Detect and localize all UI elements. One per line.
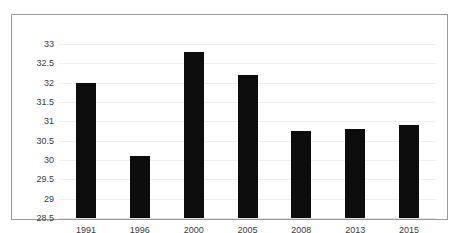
x-axis-tick-label: 2000 (184, 226, 204, 232)
y-axis-tick-label: 29 (44, 194, 54, 203)
y-axis-tick-label: 30 (44, 156, 54, 165)
y-axis-tick-label: 32 (44, 78, 54, 87)
y-axis-tick-label: 31 (44, 117, 54, 126)
x-axis-tick-label: 2015 (399, 226, 419, 232)
plot-area: 3332.53231.53130.53029.52928.51991199620… (59, 44, 436, 218)
x-axis-tick-label: 1996 (130, 226, 150, 232)
y-axis-tick-label: 33 (44, 40, 54, 49)
gridline (59, 218, 436, 219)
x-axis-tick-label: 2005 (237, 226, 257, 232)
y-axis-tick-label: 29.5 (36, 175, 54, 184)
x-axis-tick-label: 1991 (76, 226, 96, 232)
y-axis-tick-label: 32.5 (36, 59, 54, 68)
bar-2000[interactable] (184, 52, 204, 218)
y-axis-tick-label: 30.5 (36, 136, 54, 145)
y-axis-tick-label: 31.5 (36, 98, 54, 107)
gridline (59, 44, 436, 45)
bar-1991[interactable] (76, 83, 96, 218)
bar-2005[interactable] (238, 75, 258, 218)
x-axis-tick-label: 2013 (345, 226, 365, 232)
x-axis-tick-label: 2008 (291, 226, 311, 232)
bar-2008[interactable] (291, 131, 311, 218)
chart-frame: 3332.53231.53130.53029.52928.51991199620… (11, 14, 448, 220)
y-axis-tick-label: 28.5 (36, 214, 54, 223)
bar-1996[interactable] (130, 156, 150, 218)
bar-2013[interactable] (345, 129, 365, 218)
bar-2015[interactable] (399, 125, 419, 218)
gridline (59, 63, 436, 64)
